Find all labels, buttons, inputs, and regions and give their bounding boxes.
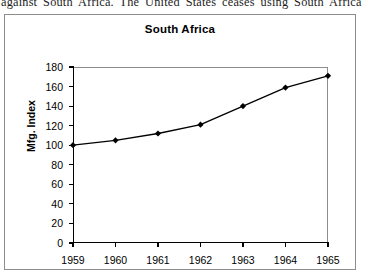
x-tick-label: 1961 [146, 254, 169, 266]
data-point-marker [112, 137, 118, 143]
y-tick-label: 0 [57, 237, 63, 249]
chart-title: South Africa [5, 23, 355, 35]
data-point-marker [282, 84, 288, 90]
x-tick-label: 1965 [316, 254, 339, 266]
plot-area: 020406080100120140160180 195919601961196… [73, 67, 328, 243]
x-tick-label: 1960 [104, 254, 127, 266]
x-tick-label: 1962 [189, 254, 212, 266]
data-point-marker [70, 142, 76, 148]
data-point-marker [325, 73, 331, 79]
caption-line: against South Africa. The United States … [0, 0, 367, 12]
series-markers [70, 73, 331, 149]
y-tick-label: 60 [51, 178, 63, 190]
y-tick-label: 140 [45, 100, 63, 112]
series-line [73, 76, 328, 145]
x-tick-label: 1963 [231, 254, 254, 266]
y-tick-label: 80 [51, 159, 63, 171]
x-tick-label: 1964 [274, 254, 297, 266]
y-tick-label: 160 [45, 81, 63, 93]
y-tick-label: 20 [51, 217, 63, 229]
y-axis-title: Mfg. Index [25, 138, 37, 152]
data-point-marker [240, 103, 246, 109]
y-tick-label: 100 [45, 139, 63, 151]
data-point-marker [197, 122, 203, 128]
data-point-marker [155, 130, 161, 136]
y-tick-label: 180 [45, 61, 63, 73]
data-series [73, 67, 328, 243]
y-tick-label: 120 [45, 120, 63, 132]
caption-text: against South Africa. The United States … [0, 0, 367, 10]
figure-frame: South Africa Mfg. Index 0204060801001201… [4, 14, 356, 270]
x-tick-label: 1959 [61, 254, 84, 266]
y-tick-label: 40 [51, 198, 63, 210]
